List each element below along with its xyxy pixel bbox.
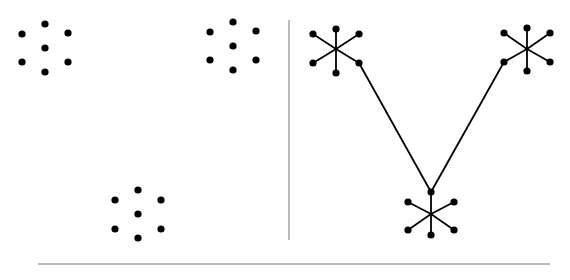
dot <box>64 58 71 65</box>
node-dot <box>309 30 316 37</box>
dot <box>229 66 236 73</box>
node-dot <box>546 58 553 65</box>
node-dot <box>355 30 362 37</box>
star-spoke <box>408 202 431 214</box>
dot <box>157 225 164 232</box>
connection-edge <box>359 63 431 192</box>
node-dot <box>523 24 530 31</box>
star-bottom <box>404 188 457 238</box>
dot <box>41 44 48 51</box>
star-spoke <box>408 214 431 230</box>
dot <box>134 210 141 217</box>
dot <box>111 225 118 232</box>
dot <box>41 68 48 75</box>
dot <box>134 186 141 193</box>
node-dot <box>500 58 507 65</box>
dot <box>111 196 118 203</box>
dot <box>41 20 48 27</box>
dot <box>18 30 25 37</box>
dot <box>229 18 236 25</box>
node-dot <box>500 29 507 36</box>
node-dot <box>546 29 553 36</box>
node-dot <box>332 25 339 32</box>
star-spoke <box>431 214 454 230</box>
dot <box>206 28 213 35</box>
star-spoke <box>336 49 359 63</box>
cluster-top-right <box>206 18 259 73</box>
dot <box>229 42 236 49</box>
star-top-right <box>500 24 553 74</box>
node-dot <box>450 226 457 233</box>
star-spoke <box>431 202 454 214</box>
left-panel-dot-clusters <box>18 18 259 241</box>
star-spoke <box>313 34 336 49</box>
node-dot <box>309 59 316 66</box>
node-dot <box>355 59 362 66</box>
star-spoke <box>504 33 527 49</box>
connection-edge <box>431 62 504 192</box>
node-dot <box>427 188 434 195</box>
dot <box>18 58 25 65</box>
node-dot <box>450 198 457 205</box>
star-spoke <box>527 49 550 62</box>
dot <box>206 56 213 63</box>
star-spoke <box>504 49 527 62</box>
cluster-top-left <box>18 20 71 75</box>
right-panel-star-graph <box>309 24 553 238</box>
node-dot <box>404 198 411 205</box>
cluster-bottom <box>111 186 164 241</box>
diagram-canvas <box>0 0 570 280</box>
dot <box>134 234 141 241</box>
dot <box>252 56 259 63</box>
node-dot <box>523 67 530 74</box>
star-spoke <box>313 49 336 63</box>
node-dot <box>427 231 434 238</box>
star-spoke <box>336 34 359 49</box>
dot <box>64 29 71 36</box>
star-spoke <box>527 33 550 49</box>
node-dot <box>404 226 411 233</box>
node-dot <box>332 69 339 76</box>
dot <box>252 27 259 34</box>
star-top-left <box>309 25 362 76</box>
dot <box>157 196 164 203</box>
